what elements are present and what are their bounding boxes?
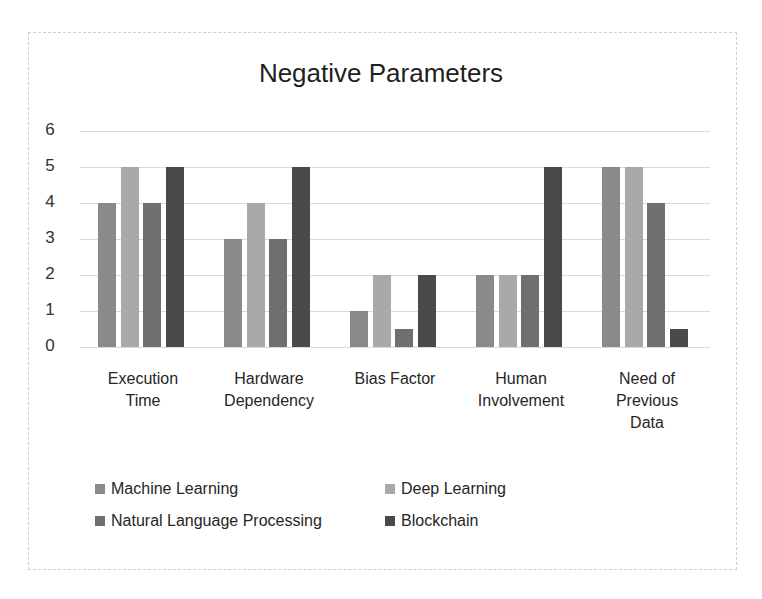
bar: [476, 275, 494, 347]
bar: [647, 203, 665, 347]
y-tick-label: 5: [40, 156, 60, 176]
bar: [143, 203, 161, 347]
gridline: [80, 347, 710, 348]
bar: [98, 203, 116, 347]
y-tick-label: 3: [40, 228, 60, 248]
legend-swatch-icon: [385, 484, 395, 494]
y-tick-label: 2: [40, 264, 60, 284]
legend-swatch-icon: [385, 516, 395, 526]
bar: [292, 167, 310, 347]
legend-item: Natural Language Processing: [95, 512, 322, 530]
bar: [373, 275, 391, 347]
bar: [521, 275, 539, 347]
y-tick-label: 1: [40, 300, 60, 320]
x-tick-label: Execution Time: [80, 368, 206, 412]
y-tick-label: 4: [40, 192, 60, 212]
legend-label: Blockchain: [401, 512, 478, 529]
chart-title: Negative Parameters: [0, 58, 762, 89]
legend-swatch-icon: [95, 516, 105, 526]
bar: [602, 167, 620, 347]
legend-item: Deep Learning: [385, 480, 506, 498]
bar: [670, 329, 688, 347]
legend-swatch-icon: [95, 484, 105, 494]
legend-label: Deep Learning: [401, 480, 506, 497]
bar: [121, 167, 139, 347]
legend-item: Blockchain: [385, 512, 478, 530]
bar: [625, 167, 643, 347]
x-tick-label: Hardware Dependency: [206, 368, 332, 412]
bar: [224, 239, 242, 347]
bar: [269, 239, 287, 347]
x-tick-label: Need of Previous Data: [584, 368, 710, 434]
y-tick-label: 6: [40, 120, 60, 140]
bar: [247, 203, 265, 347]
bar: [166, 167, 184, 347]
legend-label: Machine Learning: [111, 480, 238, 497]
x-tick-label: Bias Factor: [332, 368, 458, 390]
bar: [418, 275, 436, 347]
bar: [395, 329, 413, 347]
gridline: [80, 131, 710, 132]
plot-area: [80, 131, 710, 347]
legend-label: Natural Language Processing: [111, 512, 322, 529]
legend-item: Machine Learning: [95, 480, 238, 498]
bar: [350, 311, 368, 347]
x-tick-label: Human Involvement: [458, 368, 584, 412]
y-tick-label: 0: [40, 336, 60, 356]
bar: [544, 167, 562, 347]
bar: [499, 275, 517, 347]
